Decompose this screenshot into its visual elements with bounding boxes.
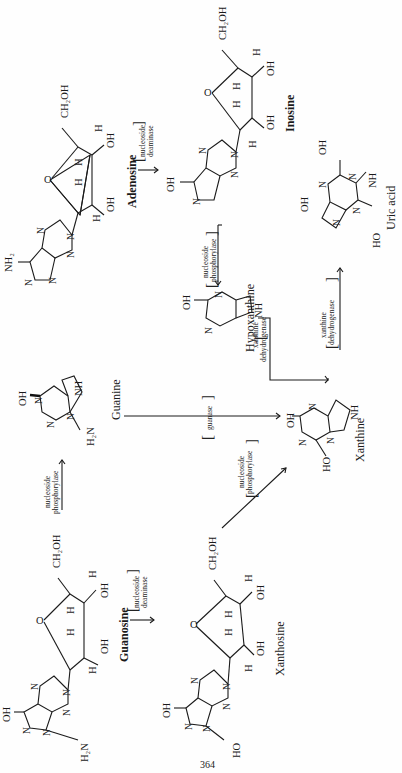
reaction-xanthine-dehydrogenase: [ xanthine dehydrogenase ] xyxy=(319,268,343,350)
enzyme-label: phosphorylase xyxy=(209,238,218,282)
hydroxyl-base: OH xyxy=(165,176,176,192)
svg-text:]: ] xyxy=(243,439,259,444)
textbook-page: O CH₂OH H H H H OH OH NH₂ N N N N N Aden… xyxy=(0,0,402,773)
svg-text:]: ] xyxy=(323,277,339,282)
svg-text:]: ] xyxy=(203,231,219,236)
hydrogen: H xyxy=(65,628,76,636)
guanine-structure: OH H₂N NH N N N Guanine xyxy=(17,376,123,446)
compound-name-xanthosine: Xanthosine xyxy=(273,621,287,676)
hydroxyl: OH xyxy=(99,582,110,598)
uric-acid-structure: OH OH HO NH N N N N Uric acid xyxy=(299,139,398,248)
hydrogen: H xyxy=(231,100,242,108)
amine-group: H₂N xyxy=(79,743,90,762)
hydroxyl-ho: HO xyxy=(371,232,382,248)
enzyme-label: phosphorylase xyxy=(51,470,60,514)
hydrogen: H xyxy=(87,570,98,578)
hydroxyl: OH xyxy=(265,60,276,76)
nitrogen: N xyxy=(318,181,328,188)
nitrogen: N xyxy=(30,683,40,690)
enzyme-label: phosphorylase xyxy=(245,450,254,494)
svg-text:[: [ xyxy=(203,283,219,288)
ring-oxygen: O xyxy=(36,615,44,626)
enzyme-label: deaminase xyxy=(146,125,155,157)
nh-group: NH xyxy=(367,172,378,188)
compound-name-inosine: Inosine xyxy=(283,94,297,132)
hydrogen: H xyxy=(73,158,84,166)
nitrogen: N xyxy=(222,703,232,710)
hydrogen: H xyxy=(243,664,254,672)
inosine-structure: O CH₂OH H H H H OH OH OH N N N N Inosine xyxy=(165,6,297,205)
hydroxyl: OH xyxy=(255,640,266,656)
nitrogen: N xyxy=(298,439,308,446)
hydrogen: H xyxy=(223,610,234,618)
hydroxyl: OH xyxy=(299,196,310,212)
hydrogen: H xyxy=(243,574,254,582)
ch2oh-group: CH₂OH xyxy=(51,534,62,568)
hydroxyl: OH xyxy=(181,294,192,310)
page-number: 364 xyxy=(200,759,215,770)
nitrogen: N xyxy=(198,147,208,154)
reaction-guanosine-phosphorylase: nucleoside phosphorylase xyxy=(43,460,65,514)
nitrogen: N xyxy=(214,291,224,298)
nitrogen: N xyxy=(190,677,200,684)
svg-text:]: ] xyxy=(199,395,215,400)
nitrogen: N xyxy=(192,198,202,205)
hydrogen: H xyxy=(251,48,262,56)
reaction-hypoxanthine-dehydrogenase: [ xanthine dehydrogenase xyxy=(251,316,328,383)
nitrogen: N xyxy=(230,151,240,158)
reaction-guanase: guanase [ ] xyxy=(124,395,280,440)
hydroxyl: OH xyxy=(17,390,28,406)
nitrogen: N xyxy=(230,171,240,178)
enzyme-label: deaminase xyxy=(140,576,149,608)
nitrogen: N xyxy=(24,279,34,286)
xanthosine-structure: O CH₂OH H H H H OH OH OH HO N N N N N Xa… xyxy=(161,536,287,758)
nitrogen: N xyxy=(332,219,342,226)
hydroxyl: OH xyxy=(105,196,116,212)
compound-name-xanthine: Xanthine xyxy=(353,418,367,462)
nh-group: NH xyxy=(73,380,84,396)
nitrogen: N xyxy=(34,397,44,404)
reaction-inosine-phosphorylase: [ nucleoside phosphorylase ] xyxy=(201,225,222,288)
hydrogen: H xyxy=(65,606,76,614)
nitrogen: N xyxy=(46,421,56,428)
nh-group: NH xyxy=(349,404,360,420)
enzyme-label: dehydrogenase xyxy=(259,316,268,362)
hydrogen: H xyxy=(247,140,258,148)
hydroxyl: OH xyxy=(255,584,266,600)
hydrogen: H xyxy=(91,214,102,222)
nitrogen: N xyxy=(22,727,32,734)
ring-oxygen: O xyxy=(204,87,212,98)
svg-text:]: ] xyxy=(130,121,146,126)
hydroxyl-base: OH xyxy=(1,706,12,722)
enzyme-label: guanase xyxy=(205,405,214,430)
hydrogen: H xyxy=(73,178,84,186)
compound-name-guanine: Guanine xyxy=(109,379,123,420)
nitrogen: N xyxy=(222,683,232,690)
ch2oh-group: CH₂OH xyxy=(207,536,218,570)
nitrogen: N xyxy=(36,227,46,234)
hydrogen: H xyxy=(93,124,104,132)
compound-name-guanosine: Guanosine xyxy=(117,607,131,662)
ch2oh-group: CH₂OH xyxy=(59,84,70,118)
hydrogen: H xyxy=(223,628,234,636)
hydroxyl: OH xyxy=(99,638,110,654)
amine-group: H₂N xyxy=(85,427,96,446)
purine-metabolism-diagram: O CH₂OH H H H H OH OH NH₂ N N N N N Aden… xyxy=(0,0,402,773)
nitrogen: N xyxy=(352,207,362,214)
compound-name-uric-acid: Uric acid xyxy=(384,186,398,230)
xanthine-structure: OH HO NH N N N Xanthine xyxy=(285,400,367,472)
hydroxyl-base: OH xyxy=(161,702,172,718)
hydrogen: H xyxy=(231,82,242,90)
svg-text:[: [ xyxy=(199,435,215,440)
hydroxyl: OH xyxy=(105,132,116,148)
nitrogen: N xyxy=(184,723,194,730)
amine-group: NH₂ xyxy=(3,253,14,272)
hydroxyl: OH xyxy=(265,114,276,130)
ring-oxygen: O xyxy=(44,174,52,185)
hydroxyl-ho: HO xyxy=(321,456,332,472)
nitrogen: N xyxy=(326,437,336,444)
enzyme-label: dehydrogenase xyxy=(327,299,336,345)
nitrogen: N xyxy=(62,689,72,696)
guanosine-structure: O CH₂OH H H H H OH OH OH H₂N N N N N N G… xyxy=(1,534,131,762)
nitrogen: N xyxy=(66,413,76,420)
